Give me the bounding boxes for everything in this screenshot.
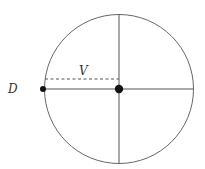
left-point-d [40, 86, 46, 92]
circle-diagram: D V [0, 0, 205, 169]
label-v: V [79, 64, 89, 78]
center-point [115, 85, 123, 93]
label-d: D [7, 82, 18, 96]
